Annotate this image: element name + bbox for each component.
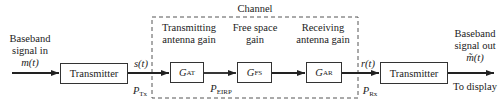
output-destination: To display <box>446 81 504 93</box>
gfs-caption-line1: Free space <box>226 22 284 34</box>
gfs-caption-line2: gain <box>226 34 284 46</box>
transmitter-block: Transmitter <box>60 63 128 84</box>
output-symbol: m̃(t) <box>446 52 504 64</box>
input-symbol: m(t) <box>2 57 58 69</box>
gar-block: GAR <box>306 62 342 83</box>
diagram-lines <box>0 0 504 103</box>
power-prx: PRx <box>358 85 382 100</box>
signal-r: r(t) <box>356 58 380 70</box>
output-label-line2: signal out <box>446 40 504 52</box>
gfs-block: GFS <box>237 62 272 83</box>
channel-title: Channel <box>225 3 285 15</box>
receiver-block: Transmitter <box>380 62 448 84</box>
gar-caption-line2: antenna gain <box>288 34 358 46</box>
transmitter-label: Transmitter <box>70 68 119 79</box>
power-ptx: PTx <box>128 85 152 100</box>
receiver-label: Transmitter <box>390 68 439 79</box>
gat-caption-line2: antenna gain <box>154 34 224 46</box>
input-label-line2: signal in <box>2 45 58 57</box>
power-peirp: PEIRP <box>204 83 238 98</box>
output-label-line1: Baseband <box>446 28 504 40</box>
gar-caption-line1: Receiving <box>288 22 358 34</box>
gat-block: GAT <box>170 62 204 83</box>
signal-s: s(t) <box>128 58 154 70</box>
gat-caption-line1: Transmitting <box>154 22 224 34</box>
input-label-line1: Baseband <box>2 33 58 45</box>
